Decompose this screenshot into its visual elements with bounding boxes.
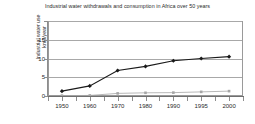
data-point-marker	[116, 68, 120, 72]
data-point-marker	[144, 92, 147, 95]
x-axis-tick-mark	[146, 97, 147, 101]
x-axis-tick-mark	[90, 97, 91, 101]
x-axis-tick-mark	[62, 97, 63, 101]
y-axis-tick-label: 0	[30, 93, 45, 99]
x-axis-tick-mark	[104, 97, 105, 101]
data-point-marker	[199, 56, 203, 60]
x-axis-tick-label: 1990	[161, 103, 185, 110]
x-axis-tick-label: 2000	[217, 103, 241, 110]
data-point-marker	[171, 59, 175, 63]
data-point-marker	[60, 89, 64, 93]
x-axis-tick-label: 1960	[78, 103, 102, 110]
data-series-layer	[48, 21, 243, 96]
chart-container: Industrial water withdrawals and consump…	[0, 0, 255, 124]
x-axis-tick-mark	[173, 97, 174, 101]
y-axis-tick-label: 15	[30, 37, 45, 43]
x-axis-tick-mark	[118, 97, 119, 101]
y-axis-tick-label: 10	[30, 56, 45, 62]
x-axis-tick-label: 1950	[50, 103, 74, 110]
x-axis-tick-label: 1980	[134, 103, 158, 110]
y-axis-tick-labels: 051015	[30, 21, 45, 96]
x-axis-tick-mark	[76, 97, 77, 101]
data-point-marker	[116, 92, 119, 95]
x-axis-tick-mark	[48, 97, 49, 101]
data-point-marker	[172, 91, 175, 94]
data-point-marker	[228, 90, 231, 93]
data-point-marker	[143, 64, 147, 68]
x-axis-tick-mark	[159, 97, 160, 101]
y-axis-tick-label: 5	[30, 74, 45, 80]
data-point-marker	[227, 55, 231, 59]
x-axis-tick-mark	[132, 97, 133, 101]
x-axis-tick-label: 1970	[106, 103, 130, 110]
x-axis-tick-mark	[243, 97, 244, 101]
x-axis-tick-mark	[187, 97, 188, 101]
x-axis-tick-mark	[201, 97, 202, 101]
x-axis-tick-mark	[215, 97, 216, 101]
series-line	[62, 57, 229, 91]
x-axis-tick-label: 1995	[189, 103, 213, 110]
x-axis-tick-mark	[229, 97, 230, 101]
data-point-marker	[200, 91, 203, 94]
data-point-marker	[88, 84, 92, 88]
